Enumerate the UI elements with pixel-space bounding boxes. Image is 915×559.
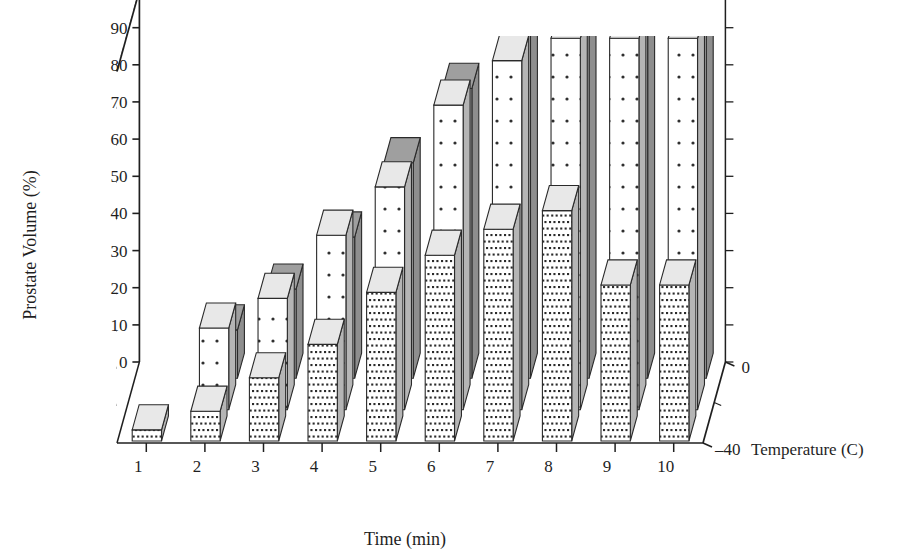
bar-side <box>698 13 705 410</box>
y-tick-label: 0 <box>119 353 128 372</box>
x-tick-label: 2 <box>193 457 202 476</box>
bar-side <box>455 230 462 441</box>
bar-top <box>199 303 235 328</box>
bar-face <box>308 344 337 441</box>
x-axis-label: Time (min) <box>364 529 446 550</box>
bar-top <box>542 186 578 211</box>
bar-top <box>258 273 294 298</box>
bar-side <box>413 138 420 379</box>
bar-face <box>132 430 161 441</box>
y-tick-label: 40 <box>110 204 127 223</box>
bar-side <box>346 210 353 410</box>
bar-side <box>648 0 655 378</box>
bar-face <box>484 229 513 441</box>
x-tick-label: 3 <box>251 457 260 476</box>
bar-side <box>589 0 596 378</box>
bar-face <box>660 285 689 441</box>
bar-face <box>367 292 396 441</box>
bar-top <box>308 319 344 344</box>
x-tick-label: 4 <box>310 457 319 476</box>
y-tick-label: 10 <box>110 316 127 335</box>
z-tick-label-0: 0 <box>741 358 750 377</box>
bar-top <box>492 35 528 60</box>
y-tick-label: 90 <box>110 19 127 38</box>
x-tick-label: 9 <box>603 457 612 476</box>
y-tick-label: 60 <box>110 130 127 149</box>
y-tick-label: 100 <box>102 0 128 1</box>
bar-side <box>572 186 579 441</box>
bar-face <box>249 378 278 441</box>
bar-side <box>472 63 479 378</box>
y-tick-label: 20 <box>110 279 127 298</box>
bar-side <box>630 260 637 441</box>
y-tick-label: 80 <box>110 56 127 75</box>
z-axis-label: Temperature (C) <box>751 440 864 459</box>
bar-side <box>463 80 470 410</box>
bar-top <box>384 138 420 163</box>
bar-top <box>601 260 637 285</box>
bar-top <box>317 210 353 235</box>
bar-top <box>375 162 411 187</box>
bar-top <box>425 230 461 255</box>
bar-top <box>660 260 696 285</box>
y-tick-label: 30 <box>110 242 127 261</box>
z-tick-mid <box>714 403 721 406</box>
bar-side <box>639 13 646 410</box>
bar-face <box>542 211 571 441</box>
figure-root: 0102030405060708090100123456789100–40Pro… <box>0 0 915 559</box>
x-tick-label: 5 <box>368 457 377 476</box>
bar-top <box>434 80 470 105</box>
y-tick-label: 50 <box>110 167 127 186</box>
bar-side <box>580 13 587 410</box>
bar-side <box>396 267 403 441</box>
bar-side <box>530 0 537 378</box>
bar-side <box>706 0 713 378</box>
bar-side <box>355 212 362 378</box>
x-tick-label: 6 <box>427 457 436 476</box>
bar-side <box>522 35 529 409</box>
y-axis-label: Prostate Volume (%) <box>20 170 41 319</box>
bar-side <box>689 260 696 441</box>
bar-top <box>191 386 227 411</box>
bar-face <box>601 285 630 441</box>
bar-top <box>484 204 520 229</box>
bar-side <box>405 162 412 410</box>
bar-top <box>249 353 285 378</box>
x-tick-label: 10 <box>657 457 674 476</box>
bar-chart-3d: 0102030405060708090100123456789100–40Pro… <box>0 0 915 559</box>
bar-face <box>191 411 220 441</box>
bar-top <box>367 267 403 292</box>
x-tick-label: 8 <box>544 457 553 476</box>
x-tick-label: 1 <box>134 457 143 476</box>
bar-side <box>513 204 520 441</box>
bar-top <box>132 405 168 430</box>
y-tick-label: 70 <box>110 93 127 112</box>
z-tick-label-40: –40 <box>714 440 741 459</box>
bar-face <box>425 255 454 441</box>
z-tick-front <box>703 443 712 447</box>
x-tick-label: 7 <box>486 457 495 476</box>
